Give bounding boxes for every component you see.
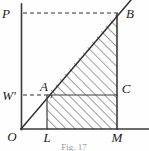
geometry-figure: P B W' A C O L M Fig. 17 [0, 0, 149, 151]
label-c: C [122, 81, 131, 96]
label-p: P [1, 6, 10, 21]
label-l: L [42, 130, 50, 145]
shaded-triangle-abc [47, 13, 117, 95]
label-a: A [39, 79, 48, 94]
figure-container: P B W' A C O L M Fig. 17 [0, 0, 149, 151]
figure-caption: Fig. 17 [61, 142, 87, 151]
label-w-prime: W' [2, 88, 16, 103]
shaded-rectangle-lmca [47, 95, 117, 129]
label-m: M [111, 130, 124, 145]
label-b: B [126, 6, 134, 21]
label-o: O [7, 129, 17, 144]
